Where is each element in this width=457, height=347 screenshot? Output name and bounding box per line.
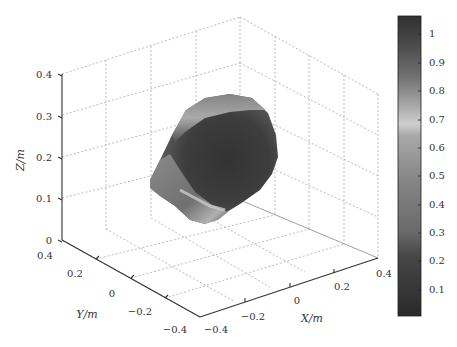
y-axis-label: Y/m bbox=[76, 308, 97, 321]
svg-text:0.9: 0.9 bbox=[429, 57, 445, 68]
svg-text:0.7: 0.7 bbox=[429, 114, 445, 125]
svg-text:0.6: 0.6 bbox=[429, 142, 445, 153]
svg-text:0.2: 0.2 bbox=[36, 152, 52, 163]
svg-text:0.2: 0.2 bbox=[67, 268, 83, 279]
svg-text:0: 0 bbox=[109, 288, 115, 299]
svg-text:0: 0 bbox=[294, 295, 300, 306]
svg-text:0.4: 0.4 bbox=[429, 199, 445, 210]
svg-text:0.2: 0.2 bbox=[334, 281, 350, 292]
svg-text:0.8: 0.8 bbox=[429, 85, 445, 96]
svg-text:0.1: 0.1 bbox=[36, 193, 52, 204]
chart-canvas: 0.4 0.3 0.2 0.1 0 Z/m 0.4 0.2 0 −0.2 −0.… bbox=[0, 0, 457, 347]
z-axis-label: Z/m bbox=[14, 149, 27, 172]
colorbar: 1 0.9 0.8 0.7 0.6 0.5 0.4 0.3 0.2 0.1 bbox=[398, 16, 445, 316]
svg-text:1: 1 bbox=[429, 28, 435, 39]
svg-text:−0.4: −0.4 bbox=[204, 324, 228, 335]
surface-plot bbox=[150, 94, 278, 224]
svg-text:0: 0 bbox=[46, 235, 52, 246]
svg-text:−0.2: −0.2 bbox=[128, 306, 152, 317]
colorbar-tick-labels: 1 0.9 0.8 0.7 0.6 0.5 0.4 0.3 0.2 0.1 bbox=[429, 28, 445, 295]
x-axis-line bbox=[200, 258, 378, 317]
svg-text:−0.2: −0.2 bbox=[241, 311, 265, 322]
svg-text:−0.4: −0.4 bbox=[163, 324, 187, 335]
svg-text:0.4: 0.4 bbox=[36, 69, 52, 80]
y-tick-labels: 0.4 0.2 0 −0.2 −0.4 bbox=[37, 250, 187, 335]
svg-text:0.1: 0.1 bbox=[429, 284, 445, 295]
z-tick-labels: 0.4 0.3 0.2 0.1 0 bbox=[36, 69, 52, 246]
svg-text:0.2: 0.2 bbox=[429, 255, 445, 266]
svg-text:0.5: 0.5 bbox=[429, 170, 445, 181]
svg-text:0.3: 0.3 bbox=[429, 227, 445, 238]
svg-text:0.4: 0.4 bbox=[37, 250, 53, 261]
svg-text:0.3: 0.3 bbox=[36, 111, 52, 122]
x-axis-label: X/m bbox=[300, 312, 323, 325]
svg-text:0.4: 0.4 bbox=[376, 268, 392, 279]
